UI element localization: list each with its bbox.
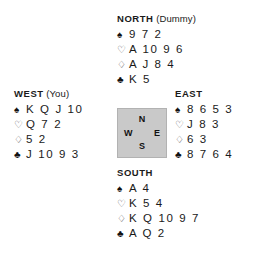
hand-south-header: SOUTH	[117, 167, 200, 179]
hand-west-clubs-row: ♣ J 10 9 3	[14, 147, 84, 162]
hand-east-seat-label: EAST	[175, 88, 203, 99]
compass-south-label: S	[139, 142, 145, 151]
hand-north-seat-label: NORTH	[117, 13, 154, 24]
hand-north-hearts-row: ♡ A 10 9 6	[117, 42, 196, 57]
compass-west-label: W	[124, 129, 133, 138]
club-icon: ♣	[14, 147, 26, 162]
spade-icon: ♠	[14, 102, 26, 117]
hand-west-hearts-cards: Q 7 2	[26, 117, 62, 132]
hand-west-spades-cards: K Q J 10	[26, 102, 84, 117]
bridge-deal-diagram: NORTH (Dummy) ♠ 9 7 2 ♡ A 10 9 6 ♢ A J 8…	[0, 0, 269, 256]
heart-icon: ♡	[117, 196, 129, 211]
diamond-icon: ♢	[117, 211, 129, 226]
diamond-icon: ♢	[117, 57, 129, 72]
compass-box: N W E S	[117, 108, 167, 158]
spade-icon: ♠	[117, 181, 129, 196]
club-icon: ♣	[117, 226, 129, 241]
hand-south-hearts-row: ♡ K 5 4	[117, 196, 200, 211]
hand-west-hearts-row: ♡ Q 7 2	[14, 117, 84, 132]
hand-north-seat-note: (Dummy)	[156, 13, 196, 24]
club-icon: ♣	[117, 72, 129, 87]
hand-east-hearts-row: ♡ J 8 3	[175, 117, 233, 132]
heart-icon: ♡	[14, 117, 26, 132]
hand-north-hearts-cards: A 10 9 6	[129, 42, 184, 57]
hand-south-spades-cards: A 4	[129, 181, 150, 196]
hand-east-diamonds-cards: 6 3	[187, 132, 208, 147]
hand-east-spades-cards: 8 6 5 3	[187, 102, 233, 117]
hand-south-diamonds-row: ♢ K Q 10 9 7	[117, 211, 200, 226]
heart-icon: ♡	[175, 117, 187, 132]
hand-east: EAST ♠ 8 6 5 3 ♡ J 8 3 ♢ 6 3 ♣ 8 7 6 4	[175, 88, 233, 162]
hand-east-clubs-cards: 8 7 6 4	[187, 147, 233, 162]
hand-south-clubs-cards: A Q 2	[129, 226, 166, 241]
hand-east-spades-row: ♠ 8 6 5 3	[175, 102, 233, 117]
hand-south-diamonds-cards: K Q 10 9 7	[129, 211, 200, 226]
club-icon: ♣	[175, 147, 187, 162]
hand-east-clubs-row: ♣ 8 7 6 4	[175, 147, 233, 162]
heart-icon: ♡	[117, 42, 129, 57]
hand-north: NORTH (Dummy) ♠ 9 7 2 ♡ A 10 9 6 ♢ A J 8…	[117, 13, 196, 87]
hand-south-hearts-cards: K 5 4	[129, 196, 164, 211]
hand-east-header: EAST	[175, 88, 233, 100]
hand-west-header: WEST (You)	[14, 88, 84, 100]
hand-south-seat-label: SOUTH	[117, 167, 153, 178]
hand-north-clubs-cards: K 5	[129, 72, 151, 87]
spade-icon: ♠	[175, 102, 187, 117]
spade-icon: ♠	[117, 27, 129, 42]
hand-north-header: NORTH (Dummy)	[117, 13, 196, 25]
hand-north-diamonds-cards: A J 8 4	[129, 57, 175, 72]
diamond-icon: ♢	[175, 132, 187, 147]
hand-west-clubs-cards: J 10 9 3	[26, 147, 80, 162]
hand-south-spades-row: ♠ A 4	[117, 181, 200, 196]
hand-west: WEST (You) ♠ K Q J 10 ♡ Q 7 2 ♢ 5 2 ♣ J …	[14, 88, 84, 162]
hand-north-clubs-row: ♣ K 5	[117, 72, 196, 87]
hand-west-diamonds-cards: 5 2	[26, 132, 47, 147]
compass-north-label: N	[139, 115, 146, 124]
hand-north-diamonds-row: ♢ A J 8 4	[117, 57, 196, 72]
hand-east-diamonds-row: ♢ 6 3	[175, 132, 233, 147]
hand-west-spades-row: ♠ K Q J 10	[14, 102, 84, 117]
hand-north-spades-row: ♠ 9 7 2	[117, 27, 196, 42]
compass-east-label: E	[154, 129, 160, 138]
hand-east-hearts-cards: J 8 3	[187, 117, 220, 132]
hand-north-spades-cards: 9 7 2	[129, 27, 163, 42]
hand-west-seat-label: WEST	[14, 88, 44, 99]
hand-south-clubs-row: ♣ A Q 2	[117, 226, 200, 241]
diamond-icon: ♢	[14, 132, 26, 147]
hand-west-diamonds-row: ♢ 5 2	[14, 132, 84, 147]
hand-south: SOUTH ♠ A 4 ♡ K 5 4 ♢ K Q 10 9 7 ♣ A Q 2	[117, 167, 200, 241]
hand-west-seat-note: (You)	[46, 88, 69, 99]
